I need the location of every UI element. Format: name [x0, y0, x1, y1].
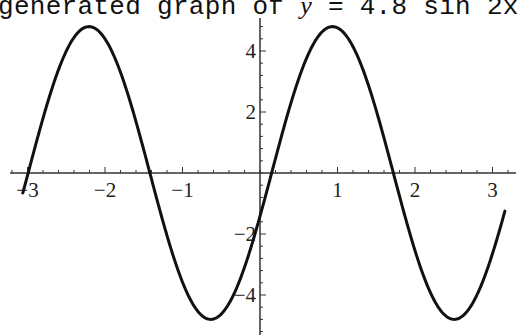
y-tick-label: 2: [246, 100, 257, 124]
y-tick-label: 4: [246, 39, 257, 63]
x-tick-label: −1: [171, 178, 193, 202]
x-tick-label: 1: [332, 178, 343, 202]
axes: [10, 18, 516, 335]
x-tick-label: 2: [410, 178, 421, 202]
x-tick-label: −2: [94, 178, 116, 202]
x-tick-label: −3: [16, 178, 38, 202]
x-tick-label: 3: [487, 178, 498, 202]
